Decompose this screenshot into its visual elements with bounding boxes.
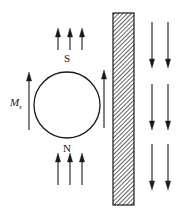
field-arrow-down-r2c1-icon (149, 84, 154, 130)
magnetization-arrow-icon (26, 72, 31, 130)
magnetization-arrow (26, 72, 31, 130)
arrow-group-top (55, 28, 84, 50)
field-arrow-up-top-3-icon (79, 28, 84, 50)
pole-label-north: N (63, 142, 71, 154)
arrow-group-middle (101, 70, 106, 128)
magnetic-field-diagram: S N M s (0, 0, 181, 216)
arrow-group-right (149, 22, 170, 190)
field-arrow-down-r2c2-icon (165, 84, 170, 130)
field-arrow-down-r3c2-icon (165, 144, 170, 190)
field-arrow-up-middle-1-icon (101, 70, 106, 128)
field-arrow-down-r1c2-icon (165, 22, 170, 68)
field-arrow-down-r3c1-icon (149, 144, 154, 190)
field-arrow-up-bottom-1-icon (55, 153, 60, 185)
figure-container: S N M s (0, 0, 181, 216)
hatched-barrier-body (113, 13, 134, 205)
magnetization-label-subscript: s (19, 103, 22, 111)
field-arrow-up-top-1-icon (55, 28, 60, 50)
pole-label-south: S (64, 52, 70, 64)
arrow-group-bottom (55, 153, 84, 185)
field-arrow-up-bottom-2-icon (67, 153, 72, 185)
field-arrow-up-top-2-icon (67, 28, 72, 50)
magnetized-sphere-outline (34, 72, 100, 138)
field-arrow-up-bottom-3-icon (79, 153, 84, 185)
field-arrow-down-r1c1-icon (149, 22, 154, 68)
